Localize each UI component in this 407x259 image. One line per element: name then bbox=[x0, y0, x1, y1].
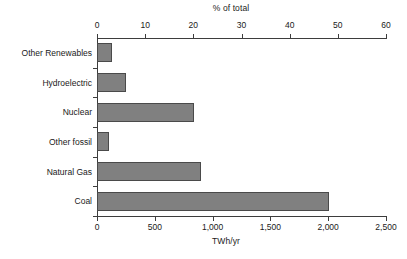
bottom-axis-tick-label: 500 bbox=[148, 222, 162, 232]
top-axis-tick bbox=[97, 34, 98, 38]
bar bbox=[97, 73, 126, 92]
bottom-axis-tick bbox=[155, 217, 156, 221]
bottom-axis-tick bbox=[270, 217, 271, 221]
category-axis-tick bbox=[93, 157, 97, 158]
top-axis-tick bbox=[338, 34, 339, 38]
category-label: Natural Gas bbox=[47, 167, 92, 177]
primary-axis-title: TWh/yr bbox=[0, 236, 407, 246]
category-label: Other Renewables bbox=[22, 48, 92, 58]
bottom-axis-tick-label: 1,500 bbox=[260, 222, 281, 232]
top-axis-tick-label: 30 bbox=[237, 20, 246, 30]
category-axis-tick bbox=[93, 97, 97, 98]
category-axis-tick bbox=[93, 68, 97, 69]
bar bbox=[97, 132, 109, 151]
category-axis-tick bbox=[93, 216, 97, 217]
category-label: Nuclear bbox=[63, 107, 92, 117]
secondary-axis-title: % of total bbox=[0, 3, 407, 13]
top-axis-tick-label: 40 bbox=[285, 20, 294, 30]
top-axis-tick bbox=[242, 34, 243, 38]
top-axis-tick-label: 10 bbox=[140, 20, 149, 30]
bottom-axis-tick bbox=[97, 217, 98, 221]
category-label: Coal bbox=[75, 196, 92, 206]
top-axis-tick bbox=[386, 34, 387, 38]
category-axis-tick bbox=[93, 186, 97, 187]
category-label: Other fossil bbox=[49, 137, 92, 147]
top-axis-tick bbox=[290, 34, 291, 38]
top-axis-tick-label: 60 bbox=[381, 20, 390, 30]
bottom-axis-tick-label: 2,000 bbox=[318, 222, 339, 232]
bottom-axis-tick-label: 1,000 bbox=[202, 222, 223, 232]
chart-figure: % of total 0102030405060 05001,0001,5002… bbox=[0, 0, 407, 259]
top-axis-tick-label: 50 bbox=[333, 20, 342, 30]
top-axis-tick-label: 20 bbox=[189, 20, 198, 30]
top-axis-line bbox=[97, 38, 387, 39]
category-axis-tick bbox=[93, 127, 97, 128]
bar bbox=[97, 192, 329, 211]
bottom-axis-tick bbox=[213, 217, 214, 221]
category-axis-line bbox=[97, 38, 98, 217]
bottom-axis-line bbox=[97, 216, 387, 217]
bar bbox=[97, 103, 194, 122]
bottom-axis-tick bbox=[328, 217, 329, 221]
bottom-axis-tick-label: 0 bbox=[95, 222, 100, 232]
bottom-axis-tick-label: 2,500 bbox=[375, 222, 396, 232]
bottom-axis-tick bbox=[386, 217, 387, 221]
category-label: Hydroelectric bbox=[42, 78, 92, 88]
bar bbox=[97, 43, 112, 62]
top-axis-tick bbox=[145, 34, 146, 38]
bar bbox=[97, 162, 201, 181]
top-axis-tick bbox=[193, 34, 194, 38]
top-axis-tick-label: 0 bbox=[95, 20, 100, 30]
